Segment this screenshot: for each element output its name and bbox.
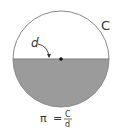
upper-semicircle xyxy=(13,11,109,59)
formula-equals: = xyxy=(53,112,62,125)
lower-semicircle xyxy=(13,59,109,107)
diameter-label: d xyxy=(31,36,39,50)
formula-denominator: d xyxy=(65,120,70,129)
formula-numerator: C xyxy=(65,110,71,119)
pi-diagram: d C π = C d xyxy=(0,0,119,132)
circumference-label: C xyxy=(101,18,110,33)
center-point xyxy=(59,57,63,61)
formula-pi: π xyxy=(40,112,47,125)
